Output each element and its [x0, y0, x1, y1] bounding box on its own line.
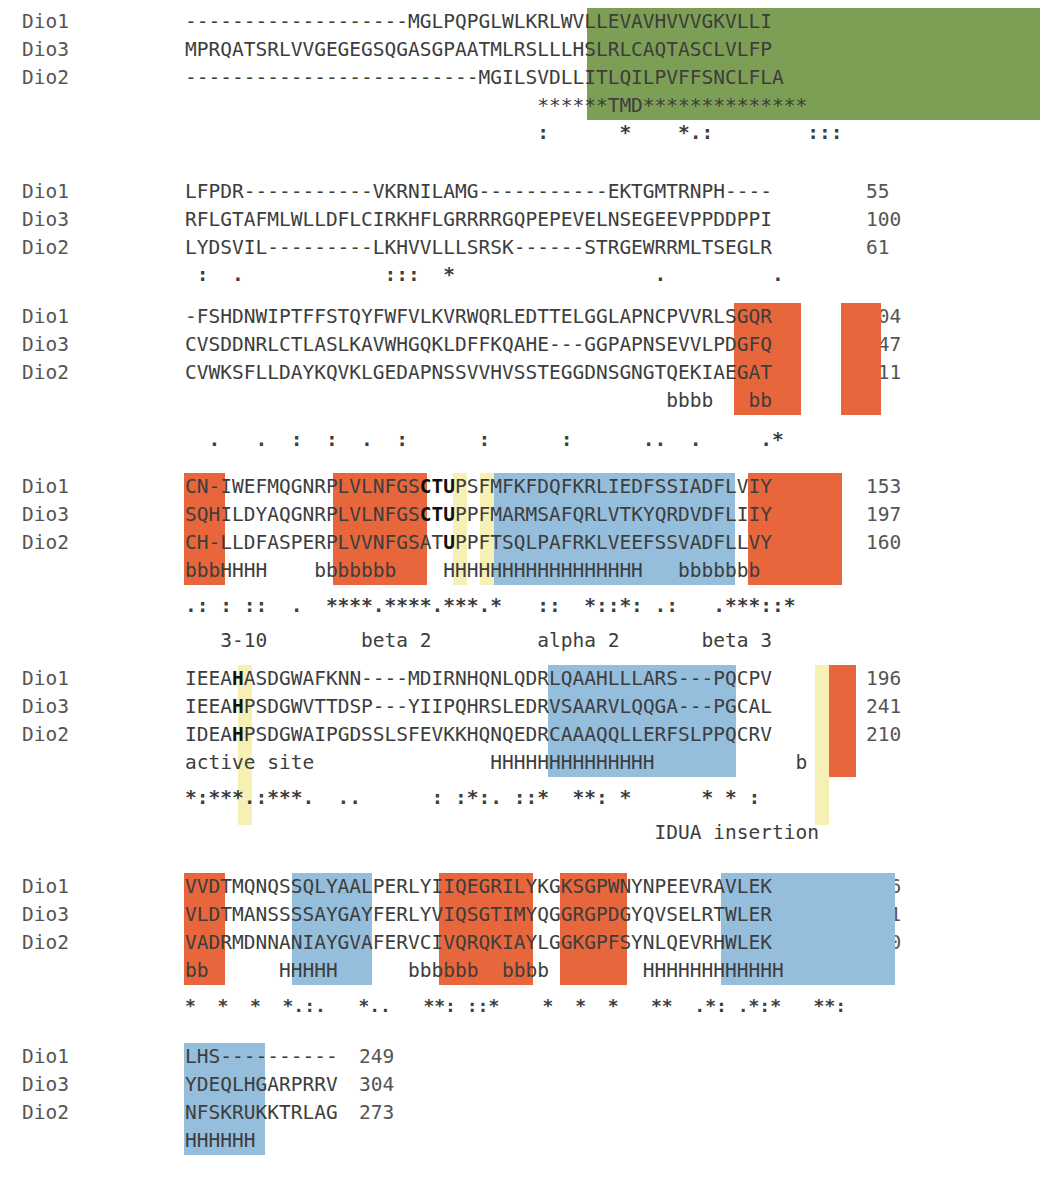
conservation-text: * * * *.:. *.. **: ::* * * * ** .*: .*:*…	[185, 993, 846, 1019]
alignment-row: Dio2 -------------------------MGILSVDLLI…	[0, 64, 70, 92]
sequence-text: VLDTMANSSSSAYGAYFERLYVIQSGTIMYQGGRGPDGYQ…	[185, 901, 772, 929]
alignment-row: Dio3 IEEAHPSDGWVTTDSP---YIIPQHRSLEDRVSAA…	[0, 693, 70, 721]
residue-number: 246	[866, 873, 901, 901]
structure-annotation-text: bbbb bb	[185, 387, 784, 415]
active-site-annotation-text: active site HHHHHHHHHHHHHH b	[185, 749, 807, 777]
sequence-label-dio2: Dio2	[22, 721, 172, 749]
idua-insertion-label-text: IDUA insertion	[185, 819, 819, 847]
alignment-row: Dio3 RFLGTAFMLWLLDFLCIRKHFLGRRRRGQPEPEVE…	[0, 206, 70, 234]
secondary-structure-labels-text: 3-10 beta 2 alpha 2 beta 3	[185, 627, 772, 655]
residue-number: 241	[866, 693, 901, 721]
residue-number: 153	[866, 473, 901, 501]
alignment-row: Dio2 IDEAHPSDGWAIPGDSSLSFEVKKHQNQEDRCAAA…	[0, 721, 70, 749]
alignment-row: Dio1 -FSHDNWIPTFFSTQYFWFVLKVRWQRLEDTTELG…	[0, 303, 70, 331]
structure-annotation-text: bbbHHHH bbbbbbb HHHHHHHHHHHHHHHHH bbbbbb…	[185, 557, 760, 585]
structure-annotation-text: bb HHHHH bbbbbb bbbb HHHHHHHHHHHH	[185, 957, 784, 985]
alignment-row: Dio2 CH-LLDFASPERPLVVNFGSATUPPFTSQLPAFRK…	[0, 529, 70, 557]
sequence-label-dio1: Dio1	[22, 873, 172, 901]
conservation-text: : . ::: * . .	[185, 262, 784, 288]
alignment-block-3: Dio1 -FSHDNWIPTFFSTQYFWFVLKVRWQRLEDTTELG…	[0, 303, 70, 441]
sequence-label-dio2: Dio2	[22, 359, 172, 387]
alignment-row: Dio1 LHS---------- 249	[0, 1043, 70, 1071]
residue-number: 31	[866, 8, 889, 36]
sequence-text: VVDTMQNQSSQLYAALPERLYIIQEGRILYKGKSGPWNYN…	[185, 873, 772, 901]
sequence-text: NFSKRUKKTRLAG	[185, 1099, 338, 1127]
alignment-block-6: Dio1 VVDTMQNQSSQLYAALPERLYIIQEGRILYKGKSG…	[0, 873, 70, 1011]
conservation-text: . . : : . : : : .. . .*	[185, 427, 784, 453]
sequence-text: CH-LLDFASPERPLVVNFGSATUPPFTSQLPAFRKLVEEF…	[185, 529, 772, 557]
sequence-text: CN-IWEFMQGNRPLVLNFGSCTUPSFMFKFDQFKRLIEDF…	[185, 473, 772, 501]
sequence-label-dio1: Dio1	[22, 178, 172, 206]
sequence-text: YDEQLHGARPRRV	[185, 1071, 338, 1099]
alignment-row: Dio3 YDEQLHGARPRRV 304	[0, 1071, 70, 1099]
conservation-row: .: : :: . ****.****.***.* :: *::*: .: .*…	[0, 589, 70, 615]
alignment-block-1: Dio1 -------------------MGLPQPGLWLKRLWVL…	[0, 8, 70, 146]
sequence-label-dio1: Dio1	[22, 1043, 172, 1071]
structure-annotation-row: bb HHHHH bbbbbb bbbb HHHHHHHHHHHH	[0, 957, 70, 985]
conservation-row: *:***.:***. .. : :*:. ::* **: * * * :	[0, 781, 70, 807]
sequence-label-dio3: Dio3	[22, 501, 172, 529]
insertion-label-row: IDUA insertion	[0, 811, 70, 839]
alignment-block-5: Dio1 IEEAHASDGWAFKNN----MDIRNHQNLQDRLQAA…	[0, 665, 70, 831]
alignment-block-2: Dio1 LFPDR-----------VKRNILAMG----------…	[0, 178, 70, 288]
residue-number: 196	[866, 665, 901, 693]
residue-number: 100	[866, 206, 901, 234]
conservation-row: : . ::: * . .	[0, 262, 70, 288]
alignment-row: Dio3 MPRQATSRLVVGEGEGSQGASGPAATMLRSLLLHS…	[0, 36, 70, 64]
sequence-label-dio2: Dio2	[22, 1099, 172, 1127]
alignment-row: Dio1 VVDTMQNQSSQLYAALPERLYIIQEGRILYKGKSG…	[0, 873, 70, 901]
alignment-row: Dio2 CVWKSFLLDAYKQVKLGEDAPNSSVVHVSSTEGGD…	[0, 359, 70, 387]
sequence-text: CVSDDNRLCTLASLKAVWHGQKLDFFKQAHE---GGPAPN…	[185, 331, 772, 359]
sequence-text: IDEAHPSDGWAIPGDSSLSFEVKKHQNQEDRCAAAQQLLE…	[185, 721, 772, 749]
sequence-label-dio1: Dio1	[22, 473, 172, 501]
structure-annotation-text: HHHHHH	[185, 1127, 255, 1155]
conservation-text: : * *.: :::	[185, 120, 842, 146]
structure-annotation-row: ******TMD**************	[0, 92, 70, 120]
sequence-text: CVWKSFLLDAYKQVKLGEDAPNSSVVHVSSTEGGDNSGNG…	[185, 359, 772, 387]
alignment-row: Dio1 -------------------MGLPQPGLWLKRLWVL…	[0, 8, 70, 36]
structure-annotation-row: bbbHHHH bbbbbbb HHHHHHHHHHHHHHHHH bbbbbb…	[0, 557, 70, 585]
residue-number: 260	[866, 929, 901, 957]
sequence-text: IEEAHPSDGWVTTDSP---YIIPQHRSLEDRVSAARVLQQ…	[185, 693, 772, 721]
conservation-text: *:***.:***. .. : :*:. ::* **: * * * :	[185, 785, 760, 811]
residue-number: 104	[866, 303, 901, 331]
sequence-label-dio3: Dio3	[22, 331, 172, 359]
sequence-label-dio1: Dio1	[22, 8, 172, 36]
residue-number: 55	[866, 178, 889, 206]
sequence-text: MPRQATSRLVVGEGEGSQGASGPAATMLRSLLLHSLRLCA…	[185, 36, 772, 64]
structure-annotation-text: ******TMD**************	[185, 92, 807, 120]
structure-annotation-row: active site HHHHHHHHHHHHHH b	[0, 749, 70, 777]
residue-number: 291	[866, 901, 901, 929]
alignment-row: Dio2 NFSKRUKKTRLAG 273	[0, 1099, 70, 1127]
structure-annotation-row: HHHHHH	[0, 1127, 70, 1155]
sequence-text: LHS----------	[185, 1043, 338, 1071]
residue-number: 147	[866, 331, 901, 359]
sequence-text: -FSHDNWIPTFFSTQYFWFVLKVRWQRLEDTTELGGLAPN…	[185, 303, 772, 331]
conservation-row: : * *.: :::	[0, 120, 70, 146]
alignment-row: Dio3 SQHILDYAQGNRPLVLNFGSCTUPPFMARMSAFQR…	[0, 501, 70, 529]
residue-number: 249	[359, 1043, 394, 1071]
structure-annotation-row: bbbb bb	[0, 387, 70, 415]
alignment-block-7: Dio1 LHS---------- 249 Dio3 YDEQLHGARPRR…	[0, 1043, 70, 1155]
sequence-text: LFPDR-----------VKRNILAMG-----------EKTG…	[185, 178, 772, 206]
residue-number: 26	[866, 64, 889, 92]
sequence-label-dio2: Dio2	[22, 529, 172, 557]
alignment-row: Dio1 IEEAHASDGWAFKNN----MDIRNHQNLQDRLQAA…	[0, 665, 70, 693]
sequence-label-dio2: Dio2	[22, 64, 172, 92]
catalytic-yellow-band	[815, 665, 829, 825]
sequence-label-dio3: Dio3	[22, 36, 172, 64]
alignment-row: Dio3 VLDTMANSSSSAYGAYFERLYVIQSGTIMYQGGRG…	[0, 901, 70, 929]
sequence-text: VADRMDNNANIAYGVAFERVCIVQRQKIAYLGGKGPFSYN…	[185, 929, 772, 957]
secondary-structure-labels-row: 3-10 beta 2 alpha 2 beta 3	[0, 619, 70, 647]
conservation-row: * * * *.:. *.. **: ::* * * * ** .*: .*:*…	[0, 989, 70, 1015]
sequence-label-dio3: Dio3	[22, 206, 172, 234]
sequence-label-dio1: Dio1	[22, 303, 172, 331]
sequence-label-dio3: Dio3	[22, 1071, 172, 1099]
sequence-label-dio3: Dio3	[22, 693, 172, 721]
sequence-text: LYDSVIL---------LKHVVLLLSRSK------STRGEW…	[185, 234, 772, 262]
residue-number: 61	[866, 234, 889, 262]
sequence-text: RFLGTAFMLWLLDFLCIRKHFLGRRRRGQPEPEVELNSEG…	[185, 206, 772, 234]
sequence-text: -------------------------MGILSVDLLITLQIL…	[185, 64, 784, 92]
residue-number: 210	[866, 721, 901, 749]
sequence-text: IEEAHASDGWAFKNN----MDIRNHQNLQDRLQAAHLLLA…	[185, 665, 772, 693]
